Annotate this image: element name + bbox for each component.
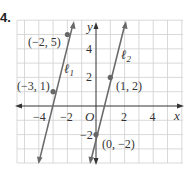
tick-x-neg2: −2 [60,110,73,124]
coordinate-plane: −4 −2 2 4 O x y 4 2 −2 (−2, 5) (−3, 1) (… [0,0,189,171]
tick-y-2: 2 [86,70,92,84]
y-axis-arrow-down-icon [94,158,99,165]
tick-x-neg4: −4 [33,110,46,124]
point-neg2-5 [65,32,70,37]
point-neg3-1 [51,89,56,94]
y-axis-arrow-up-icon [94,22,99,29]
point-1-2 [108,75,113,80]
arrow-up-icon [70,21,76,29]
tick-x-4: 4 [150,110,156,124]
tick-y-neg2: −2 [80,128,93,142]
tick-x-2: 2 [121,110,127,124]
tick-y-4: 4 [86,42,92,56]
point-label-neg2-5: (−2, 5) [28,35,61,49]
point-label-0-neg2: (0, −2) [102,137,135,151]
origin-label: O [85,109,95,124]
line-label-l2: ℓ2 [121,47,131,64]
point-0-neg2 [93,132,98,137]
point-label-neg3-1: (−3, 1) [17,79,50,93]
point-label-1-2: (1, 2) [116,79,142,93]
y-axis-label: y [85,19,93,34]
x-axis-label: x [173,108,180,123]
line-label-l1: ℓ1 [64,61,74,78]
x-axis-arrow-left-icon [15,104,22,109]
